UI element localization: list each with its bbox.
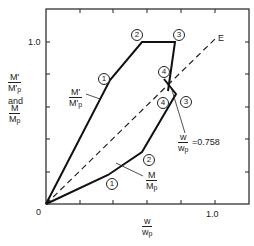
marker-m-1: 1	[106, 178, 118, 190]
leader-m	[116, 163, 143, 176]
x-axis-label: w wp	[142, 216, 152, 239]
marker-mprime-4: 4	[158, 66, 170, 78]
marker-mprime-1: 1	[98, 73, 110, 85]
marker-mprime-2: 2	[131, 29, 143, 41]
origin-label: 0	[36, 207, 41, 217]
leader-m-prime	[86, 94, 100, 99]
marker-m-4: 4	[157, 97, 169, 109]
annotation-w-wp: w wp	[178, 132, 188, 155]
y-axis-label-mprime: M' M'p	[8, 72, 21, 95]
annotation-value: =0.758	[192, 137, 220, 147]
marker-m-2: 2	[143, 154, 155, 166]
marker-mprime-3: 3	[173, 29, 185, 41]
y-axis-label-m: M Mp	[9, 103, 20, 126]
line-e-dashed	[46, 38, 216, 204]
line-e-label: E	[218, 33, 224, 43]
curve-label-m: M Mp	[146, 170, 157, 193]
x-tick-label-1: 1.0	[206, 209, 219, 219]
y-tick-label-1: 1.0	[28, 37, 41, 47]
curve-label-mprime: M' M'p	[69, 87, 82, 110]
leader-annotation	[171, 87, 185, 133]
marker-m-3: 3	[180, 96, 192, 108]
